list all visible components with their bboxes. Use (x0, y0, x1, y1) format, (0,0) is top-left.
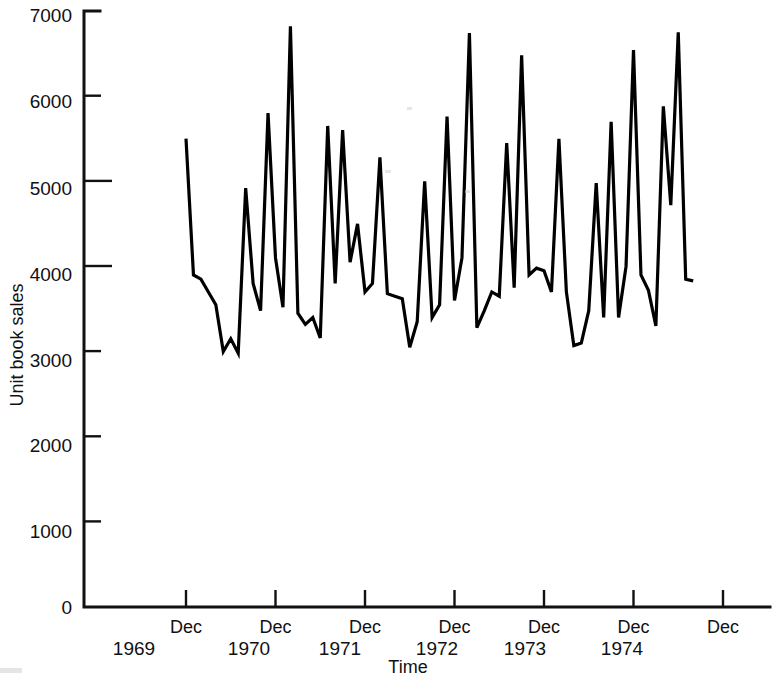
x-axis-title: Time (388, 657, 427, 677)
x-year-label-1969: 1969 (113, 638, 155, 659)
y-tick-label-0: 0 (61, 597, 72, 618)
x-tick-label-dec-4: Dec (438, 617, 470, 637)
y-tick-marks (84, 96, 112, 522)
x-tick-label-dec-6: Dec (617, 617, 649, 637)
data-series-line (186, 26, 693, 353)
y-tick-label-4000: 4000 (30, 264, 72, 285)
y-tick-label-2000: 2000 (30, 435, 72, 456)
x-tick-label-dec-7: Dec (707, 617, 739, 637)
y-tick-label-7000: 7000 (30, 5, 72, 26)
x-tick-label-dec-2: Dec (259, 617, 291, 637)
y-tick-label-1000: 1000 (30, 521, 72, 542)
x-year-label-1971: 1971 (319, 638, 361, 659)
x-year-label-1973: 1973 (504, 638, 546, 659)
y-tick-label-3000: 3000 (30, 350, 72, 371)
x-year-label-1972: 1972 (416, 638, 458, 659)
x-tick-label-dec-1: Dec (170, 617, 202, 637)
x-year-label-1974: 1974 (601, 638, 644, 659)
x-tick-label-dec-3: Dec (349, 617, 381, 637)
y-axis-title: Unit book sales (7, 283, 27, 406)
x-tick-label-dec-5: Dec (528, 617, 560, 637)
x-year-label-1970: 1970 (228, 638, 270, 659)
chart-figure: Unit book sales 0 1000 2000 3000 4000 50… (0, 0, 784, 677)
x-tick-marks (186, 590, 723, 607)
y-tick-label-6000: 6000 (30, 91, 72, 112)
y-tick-label-5000: 5000 (30, 178, 72, 199)
line-chart-svg: Unit book sales 0 1000 2000 3000 4000 50… (0, 0, 784, 677)
axis-lines (84, 11, 770, 607)
